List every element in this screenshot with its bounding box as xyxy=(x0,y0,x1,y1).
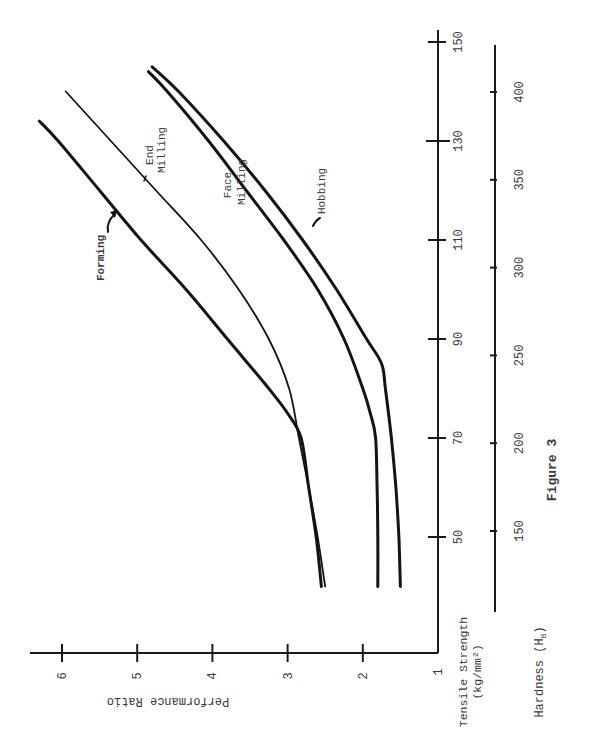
curve-forming xyxy=(39,121,321,586)
x-tick-label-150: 150 xyxy=(452,31,466,53)
x2-tick-label-200: 200 xyxy=(513,432,527,454)
x-tick-label-70: 70 xyxy=(452,431,466,445)
x2-tick-label-250: 250 xyxy=(513,345,527,367)
y-tick-label-5: 5 xyxy=(131,672,145,679)
y-tick-label-2: 2 xyxy=(357,672,371,679)
y-tick-label-1: 1 xyxy=(432,668,446,675)
label-end-milling-line2: Milling xyxy=(156,127,168,173)
label-forming-text: Forming xyxy=(95,235,107,281)
x2-tick-label-150: 150 xyxy=(513,520,527,542)
tensile-strength-ticks: 507090110130150 xyxy=(426,31,466,544)
x2-axis-label: Hardness (HB) xyxy=(533,626,548,717)
curve-end-milling xyxy=(66,92,325,587)
label-hobbing-leader xyxy=(313,218,320,226)
label-hobbing-text: Hobbing xyxy=(316,168,328,214)
label-forming-arrow xyxy=(108,214,115,232)
label-face-milling-line2: Milling xyxy=(236,159,248,205)
x2-axis-label-close: ) xyxy=(533,626,547,633)
performance-ratio-ticks: 123456 xyxy=(56,644,446,680)
x2-tick-label-350: 350 xyxy=(513,169,527,191)
label-hobbing: Hobbing xyxy=(313,168,328,226)
y-tick-label-3: 3 xyxy=(282,672,296,679)
curve-hobbing xyxy=(152,67,400,587)
curves xyxy=(39,67,400,587)
label-face-milling-line1: Face xyxy=(222,172,234,198)
x-tick-label-90: 90 xyxy=(452,332,466,346)
x2-tick-label-400: 400 xyxy=(513,81,527,103)
y-tick-label-4: 4 xyxy=(206,672,220,679)
chart-title: Figure 3 xyxy=(545,439,560,502)
x-tick-label-110: 110 xyxy=(452,229,466,251)
y-axis-label: Performance Ratio xyxy=(107,694,229,708)
y-tick-label-6: 6 xyxy=(56,672,70,679)
x-tick-label-50: 50 xyxy=(452,530,466,544)
label-forming: Forming xyxy=(95,210,117,281)
x-axis-label-line2: (kg/mm²) xyxy=(471,644,484,699)
label-end-milling-line1: End xyxy=(144,145,156,165)
x-axis-label-line1: Tensile Strength xyxy=(457,617,470,727)
x2-axis-label-text: Hardness (H xyxy=(533,638,547,717)
label-end-milling: End Milling xyxy=(144,127,168,181)
x2-tick-label-300: 300 xyxy=(513,257,527,279)
performance-ratio-chart: 507090110130150 150200250300350400 12345… xyxy=(0,0,590,745)
x-tick-label-130: 130 xyxy=(452,130,466,152)
svg-text:Hardness (HB): Hardness (HB) xyxy=(533,626,548,717)
